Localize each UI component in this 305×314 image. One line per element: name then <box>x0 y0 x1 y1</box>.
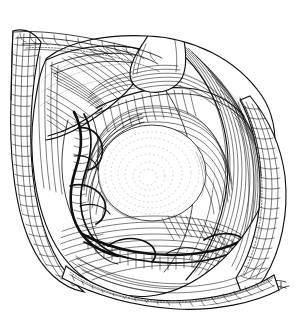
dome-body <box>98 125 206 221</box>
illustration-canvas <box>0 0 305 314</box>
anatomical-illustration-figure: Surgical exposure — dissected wound with… <box>0 0 305 314</box>
